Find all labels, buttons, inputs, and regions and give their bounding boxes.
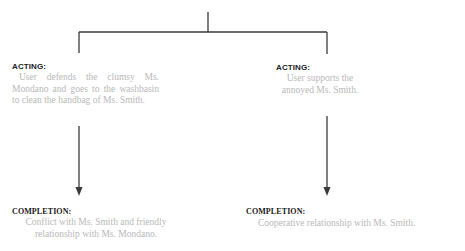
right-acting-heading: ACTING:: [276, 63, 310, 72]
left-arrowhead-icon: [76, 187, 83, 196]
left-completion-text-line1: Conflict with Ms. Smith and friendly: [6, 217, 186, 229]
right-arrowhead-icon: [324, 187, 331, 196]
right-completion-text: Cooperative relationship with Ms. Smith.: [258, 218, 463, 230]
right-acting-text: User supports the annoyed Ms. Smith.: [270, 73, 370, 96]
left-acting-heading: ACTING:: [12, 62, 46, 71]
right-acting-text-line2: annoyed Ms. Smith.: [270, 85, 370, 97]
left-completion-heading: COMPLETION:: [12, 207, 71, 216]
right-completion-heading: COMPLETION:: [246, 207, 305, 216]
left-completion-text: Conflict with Ms. Smith and friendly rel…: [6, 217, 186, 240]
left-completion-text-line2: relationship with Ms. Mondano.: [6, 229, 186, 241]
left-acting-text: User defends the clumsy Ms. Mondano and …: [12, 72, 159, 107]
right-acting-text-line1: User supports the: [270, 73, 370, 85]
